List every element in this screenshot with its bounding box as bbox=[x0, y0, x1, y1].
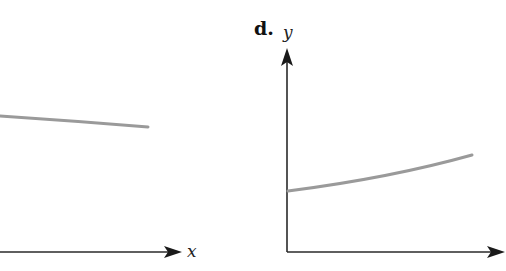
panel-d: d. y bbox=[254, 17, 505, 258]
d-curve bbox=[288, 155, 472, 191]
left-x-axis-label: x bbox=[187, 241, 197, 261]
figure: x d. y bbox=[0, 0, 506, 271]
panel-label: d. bbox=[254, 17, 274, 39]
left-curve bbox=[0, 116, 148, 127]
panel-left: x bbox=[0, 116, 197, 261]
y-axis-label: y bbox=[282, 22, 293, 42]
